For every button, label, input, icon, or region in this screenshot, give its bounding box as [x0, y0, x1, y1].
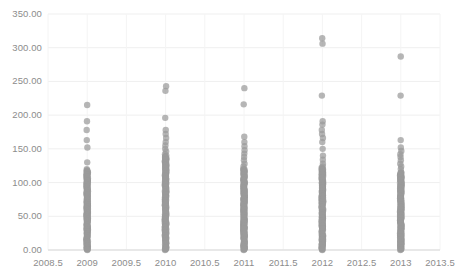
y-axis-tick-label: 350.00: [0, 8, 42, 19]
data-point: [241, 85, 247, 91]
data-point: [241, 246, 247, 252]
data-point: [398, 53, 404, 59]
data-point: [84, 137, 90, 143]
x-axis-tick-label: 2009: [65, 257, 109, 268]
data-point: [84, 159, 90, 165]
x-axis-tick-label: 2010: [144, 257, 188, 268]
data-point: [241, 101, 247, 107]
y-axis-tick-label: 250.00: [0, 75, 42, 86]
data-point: [319, 246, 325, 252]
data-point: [398, 137, 404, 143]
data-point: [162, 115, 168, 121]
data-point: [84, 102, 90, 108]
data-point: [162, 88, 168, 94]
x-axis-tick-label: 2008.5: [26, 257, 70, 268]
data-point: [319, 146, 325, 152]
x-axis-tick-label: 2012: [300, 257, 344, 268]
x-axis-tick-label: 2009.5: [104, 257, 148, 268]
y-axis-tick-label: 50.00: [0, 210, 42, 221]
data-point: [398, 246, 404, 252]
data-point: [83, 127, 89, 133]
data-point: [319, 121, 325, 127]
x-axis-tick-label: 2011.5: [261, 257, 305, 268]
data-point: [84, 246, 90, 252]
x-axis-tick-label: 2010.5: [183, 257, 227, 268]
data-point: [84, 118, 90, 124]
data-point: [319, 40, 325, 46]
x-axis-tick-label: 2013.5: [418, 257, 459, 268]
x-axis-tick-label: 2012.5: [340, 257, 384, 268]
data-point: [319, 92, 325, 98]
y-axis-tick-label: 200.00: [0, 109, 42, 120]
y-axis-tick-label: 150.00: [0, 143, 42, 154]
data-point: [319, 139, 325, 145]
data-point: [84, 144, 90, 150]
x-axis-tick-label: 2013: [379, 257, 423, 268]
data-point: [397, 92, 403, 98]
y-axis-tick-label: 100.00: [0, 177, 42, 188]
x-axis-tick-label: 2011: [222, 257, 266, 268]
y-axis-tick-label: 300.00: [0, 42, 42, 53]
data-point: [162, 246, 168, 252]
y-axis-tick-label: 0.00: [0, 244, 42, 255]
